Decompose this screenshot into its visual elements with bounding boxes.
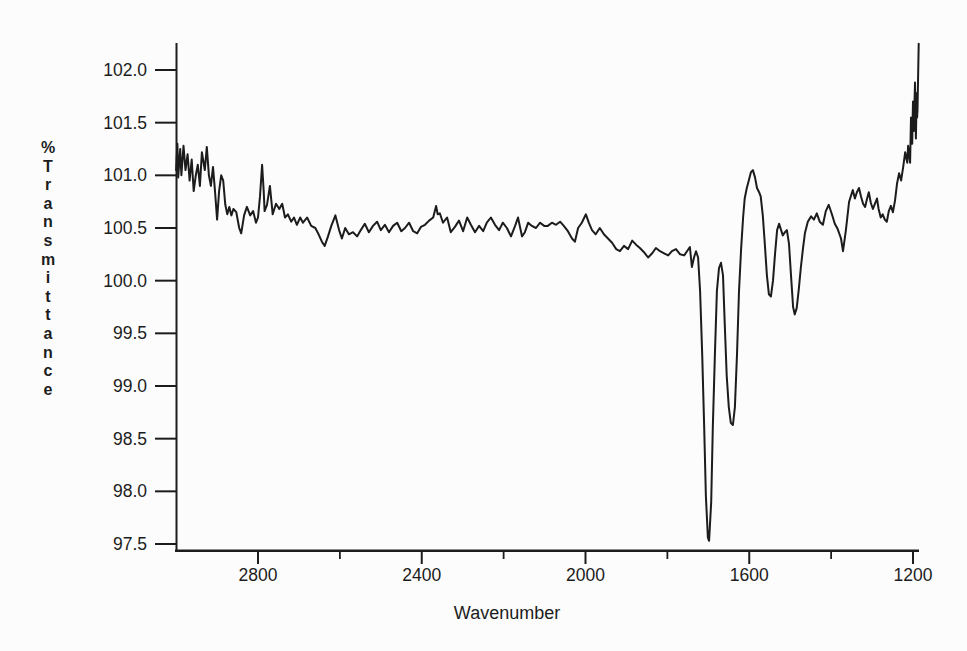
y-tick-label: 98.0 — [113, 481, 147, 501]
y-tick-label: 99.5 — [113, 323, 147, 343]
x-axis-title: Wavenumber — [407, 603, 607, 624]
y-tick-label: 101.0 — [103, 165, 147, 185]
y-tick-label: 101.5 — [103, 113, 147, 133]
y-tick-label: 98.5 — [113, 429, 147, 449]
x-tick-label: 2800 — [239, 565, 278, 585]
x-tick-label: 2400 — [402, 565, 441, 585]
x-tick-label: 1200 — [894, 565, 933, 585]
spectrum-trace — [176, 44, 919, 541]
y-tick-label: 102.0 — [103, 60, 147, 80]
x-tick-label: 1600 — [730, 565, 769, 585]
x-tick-label: 2000 — [566, 565, 605, 585]
spectrum-plot: 102.0101.5101.0100.5100.099.599.098.598.… — [0, 0, 967, 651]
y-tick-label: 99.0 — [113, 376, 147, 396]
y-tick-label: 97.5 — [113, 534, 147, 554]
y-tick-label: 100.5 — [103, 218, 147, 238]
y-tick-label: 100.0 — [103, 271, 147, 291]
spectrum-figure: %Transmittance 102.0101.5101.0100.5100.0… — [0, 0, 967, 651]
